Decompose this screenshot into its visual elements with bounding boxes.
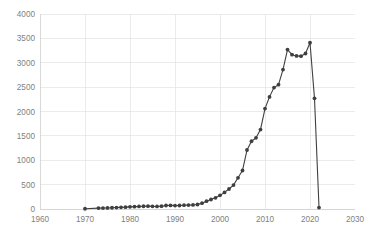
- data-point-marker: [187, 203, 191, 207]
- data-point-marker: [277, 83, 281, 87]
- x-axis-tick-label: 2030: [346, 215, 365, 224]
- data-point-marker: [200, 201, 204, 205]
- data-point-marker: [164, 204, 168, 208]
- data-point-marker: [128, 205, 132, 209]
- y-axis-tick-label: 4000: [17, 10, 36, 19]
- data-point-marker: [218, 193, 222, 197]
- x-axis-tick-label: 1970: [76, 215, 95, 224]
- chart-container: 05001000150020002500300035004000 1960197…: [0, 0, 376, 237]
- x-axis-tick-label: 2020: [301, 215, 320, 224]
- data-point-marker: [124, 205, 128, 209]
- data-point-marker: [214, 196, 218, 200]
- data-point-marker: [295, 54, 299, 58]
- data-point-marker: [263, 107, 267, 111]
- y-axis-tick-label: 2000: [17, 108, 36, 117]
- data-point-marker: [299, 54, 303, 58]
- data-point-marker: [146, 204, 150, 208]
- data-point-marker: [241, 169, 245, 173]
- y-axis-tick-label: 3500: [17, 34, 36, 43]
- data-point-marker: [160, 204, 164, 208]
- data-point-marker: [236, 176, 240, 180]
- data-point-marker: [259, 128, 263, 132]
- data-point-marker: [205, 199, 209, 203]
- x-axis-tick-label: 2010: [256, 215, 275, 224]
- y-axis-tick-labels: 05001000150020002500300035004000: [17, 10, 36, 214]
- data-point-marker: [209, 198, 213, 202]
- data-point-marker: [151, 204, 155, 208]
- gridlines: [40, 14, 355, 209]
- y-axis-tick-label: 1500: [17, 132, 36, 141]
- y-axis-tick-label: 500: [21, 181, 35, 190]
- y-axis-tick-label: 2500: [17, 83, 36, 92]
- data-point-marker: [101, 206, 105, 210]
- series-line-path: [85, 43, 319, 209]
- data-point-marker: [254, 136, 258, 140]
- data-point-marker: [155, 205, 159, 209]
- data-point-marker: [142, 204, 146, 208]
- x-axis-tick-labels: 19601970198019902000201020202030: [31, 215, 365, 224]
- data-point-marker: [286, 48, 290, 52]
- data-point-marker: [250, 139, 254, 143]
- data-point-marker: [133, 205, 137, 209]
- y-axis-tick-label: 1000: [17, 156, 36, 165]
- data-point-marker: [169, 203, 173, 207]
- data-point-marker: [106, 206, 110, 210]
- data-point-marker: [110, 206, 114, 210]
- data-point-marker: [223, 191, 227, 195]
- data-point-marker: [317, 206, 321, 210]
- data-point-marker: [245, 148, 249, 152]
- data-point-marker: [290, 53, 294, 57]
- data-point-marker: [97, 206, 101, 210]
- data-point-marker: [268, 95, 272, 99]
- data-point-marker: [137, 205, 141, 209]
- data-point-marker: [308, 41, 312, 45]
- data-point-marker: [304, 52, 308, 56]
- data-series: [85, 43, 319, 209]
- y-axis-tick-label: 0: [30, 205, 35, 214]
- data-point-marker: [115, 206, 119, 210]
- data-point-marker: [227, 187, 231, 191]
- data-point-marker: [313, 96, 317, 100]
- data-point-marker: [119, 205, 123, 209]
- data-point-marker: [83, 207, 87, 211]
- data-point-marker: [173, 204, 177, 208]
- data-point-marker: [272, 86, 276, 90]
- data-point-marker: [182, 203, 186, 207]
- data-point-marker: [191, 203, 195, 207]
- data-point-marker: [232, 183, 236, 187]
- data-point-marker: [196, 203, 200, 207]
- x-axis-tick-label: 1980: [121, 215, 140, 224]
- x-axis-tick-label: 2000: [211, 215, 230, 224]
- data-point-markers: [83, 41, 321, 211]
- data-point-marker: [178, 204, 182, 208]
- data-point-marker: [281, 68, 285, 72]
- x-axis-tick-label: 1990: [166, 215, 185, 224]
- y-axis-tick-label: 3000: [17, 59, 36, 68]
- x-axis-tick-label: 1960: [31, 215, 50, 224]
- line-chart: 05001000150020002500300035004000 1960197…: [0, 0, 376, 237]
